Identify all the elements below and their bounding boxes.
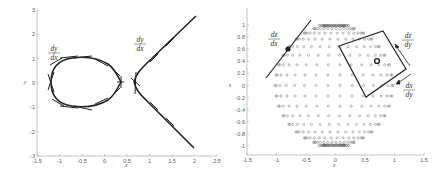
annotation-dz-dx: dz dx (268, 30, 280, 48)
svg-text:dx: dx (405, 81, 413, 90)
svg-text:dy: dy (405, 90, 413, 99)
sphere-points (274, 24, 394, 146)
left-y-ticks: 3210-1-2-3 (30, 7, 39, 159)
x-tick-label: 1.5 (420, 157, 428, 163)
annotation-dx-dy: dx dy (403, 81, 415, 99)
y-tick-label: 0.2 (237, 70, 245, 76)
right-y-label: z (228, 82, 232, 88)
highlight-point-2 (375, 59, 380, 64)
x-tick-label: 1 (148, 158, 151, 164)
x-tick-label: -1 (274, 157, 279, 163)
tangent-plane (339, 31, 406, 97)
y-tick-label: -0.6 (236, 119, 245, 125)
left-y-label: y (23, 79, 27, 85)
x-tick-label: 2 (193, 158, 196, 164)
x-tick-label: 1.5 (168, 158, 176, 164)
left-x-label: x (124, 162, 128, 168)
right-plot: 10.80.60.40.20-0.2-0.4-0.6-0.8-1 -1.5-1-… (228, 8, 428, 168)
svg-text:dx: dx (50, 53, 58, 62)
svg-text:dy: dy (50, 44, 58, 53)
svg-text:dz: dz (271, 30, 278, 39)
y-tick-label: 0.4 (237, 58, 245, 64)
y-tick-label: 0 (242, 83, 245, 89)
svg-text:dy: dy (404, 40, 412, 49)
y-tick-label: 0 (32, 80, 35, 86)
annotation-dz-dy: dz dy (402, 31, 414, 49)
annotation-dy-dx-branch: dy dx (134, 35, 146, 53)
y-tick-label: 0.6 (237, 46, 245, 52)
y-tick-label: 1 (32, 56, 35, 62)
x-tick-label: -1.5 (242, 157, 251, 163)
closed-oval-curve (51, 57, 121, 107)
y-tick-label: -0.4 (236, 107, 245, 113)
y-tick-label: -0.2 (236, 95, 245, 101)
y-tick-label: -0.8 (236, 131, 245, 137)
annotation-dy-dx-oval: dy dx (48, 44, 60, 62)
left-plot: 3210-1-2-3 -1.5-1-0.500.511.522.5 x y (23, 7, 221, 168)
x-tick-label: 1 (393, 157, 396, 163)
y-tick-label: -1 (240, 143, 245, 149)
right-x-label: x (332, 162, 336, 168)
y-tick-label: -2 (30, 129, 35, 135)
svg-text:dx: dx (270, 39, 278, 48)
y-tick-label: 3 (32, 7, 35, 13)
svg-text:dz: dz (405, 31, 412, 40)
x-tick-label: -1 (57, 158, 62, 164)
highlight-point-1 (285, 46, 290, 51)
y-tick-label: 0.8 (237, 34, 245, 40)
x-tick-label: 0.5 (361, 157, 369, 163)
svg-text:dy: dy (136, 35, 144, 44)
x-tick-label: -0.5 (301, 157, 310, 163)
x-tick-label: -0.5 (77, 158, 86, 164)
x-tick-label: -1.5 (32, 158, 41, 164)
x-tick-label: 0 (103, 158, 106, 164)
figure: 3210-1-2-3 -1.5-1-0.500.511.522.5 x y (0, 0, 447, 176)
y-tick-label: 1 (242, 22, 245, 28)
y-tick-label: -1 (30, 104, 35, 110)
x-tick-label: 2.5 (213, 158, 221, 164)
open-branch-lower (134, 82, 194, 148)
y-tick-label: 2 (32, 31, 35, 37)
svg-text:dx: dx (136, 44, 144, 53)
